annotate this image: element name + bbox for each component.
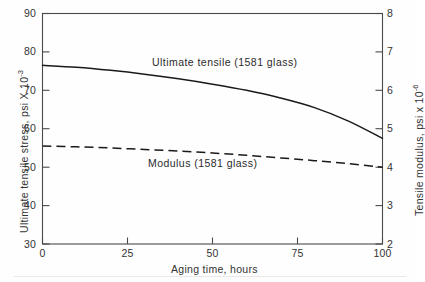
y-axis-right-tick-label: 7: [387, 45, 413, 57]
y-axis-right-title: Tensile modulus, psi x 10-6: [411, 85, 425, 216]
y-axis-right-tick-label: 4: [387, 161, 413, 173]
annotation-ultimate-tensile: Ultimate tensile (1581 glass): [152, 56, 298, 68]
y-axis-right-tick-label: 5: [387, 122, 413, 134]
y-axis-left-title: Ultimate tensile stress, psi X 10-3: [16, 70, 30, 233]
y-axis-left-title-text: Ultimate tensile stress, psi X 10: [18, 77, 30, 233]
page-edge-artifact: [14, 276, 406, 277]
y-axis-right-title-exponent: -6: [411, 85, 420, 92]
y-axis-left-tick-label: 80: [10, 45, 36, 57]
x-axis-tick-label: 50: [193, 247, 233, 259]
plot-frame: [43, 14, 383, 245]
annotation-modulus: Modulus (1581 glass): [148, 157, 257, 169]
x-axis-title: Aging time, hours: [171, 263, 258, 275]
left-axis-ticks: [43, 14, 50, 245]
y-axis-right-tick-label: 3: [387, 199, 413, 211]
x-axis-tick-label: 0: [23, 247, 63, 259]
y-axis-left-tick-label: 90: [10, 7, 36, 19]
y-axis-right-tick-label: 8: [387, 7, 413, 19]
y-axis-right-title-text: Tensile modulus, psi x 10: [413, 91, 425, 216]
y-axis-left-title-exponent: -3: [16, 70, 25, 77]
y-axis-right-tick-label: 6: [387, 84, 413, 96]
bottom-axis-ticks: [43, 238, 383, 245]
x-axis-tick-label: 25: [108, 247, 148, 259]
series-line-ultimate-tensile: [43, 65, 383, 138]
x-axis-tick-label: 100: [363, 247, 403, 259]
right-axis-ticks: [376, 14, 383, 245]
x-axis-tick-label: 75: [278, 247, 318, 259]
